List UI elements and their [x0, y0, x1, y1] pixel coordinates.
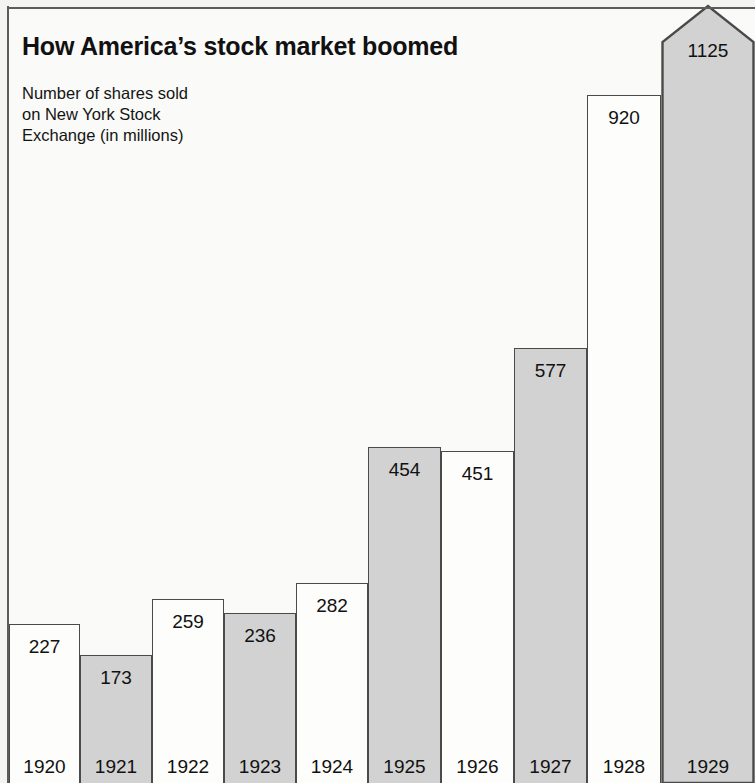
bar-year-label: 1929	[661, 756, 755, 778]
bar-value-label: 577	[515, 360, 586, 382]
bar-value-label: 451	[442, 463, 513, 485]
bar-value-label: 920	[588, 107, 660, 129]
bar-value-label: 236	[225, 625, 295, 647]
bar-year-label: 1928	[588, 756, 660, 778]
bar-1923[interactable]: 2361923	[224, 613, 296, 783]
chart-subtitle-line: Exchange (in millions)	[22, 125, 542, 146]
bar-value-label: 227	[10, 636, 79, 658]
bar-1927[interactable]: 5771927	[514, 348, 587, 783]
bar-value-label: 1125	[661, 40, 755, 62]
bar-1920[interactable]: 2271920	[9, 624, 80, 783]
bar-1926[interactable]: 4511926	[441, 451, 514, 783]
bar-arrow-shape	[661, 4, 755, 783]
chart-subtitle-line: Number of shares sold	[22, 83, 542, 104]
title-block: How America’s stock market boomed Number…	[22, 33, 542, 147]
bar-1924[interactable]: 2821924	[296, 583, 368, 783]
page-title: How America’s stock market boomed	[22, 33, 542, 61]
bar-1922[interactable]: 2591922	[152, 599, 224, 783]
frame-left-rule	[7, 6, 9, 783]
bar-year-label: 1926	[442, 756, 513, 778]
bar-value-label: 173	[81, 667, 151, 689]
bar-1929[interactable]: 11251929	[661, 4, 755, 783]
chart-page: 2271920173192125919222361923282192445419…	[0, 0, 755, 783]
frame-top-rule	[7, 7, 755, 9]
bar-year-label: 1922	[153, 756, 223, 778]
bar-year-label: 1927	[515, 756, 586, 778]
chart-subtitle: Number of shares soldon New York StockEx…	[22, 83, 542, 147]
chart-subtitle-line: on New York Stock	[22, 104, 542, 125]
bar-value-label: 259	[153, 611, 223, 633]
bar-year-label: 1921	[81, 756, 151, 778]
bar-value-label: 454	[369, 459, 440, 481]
bar-year-label: 1925	[369, 756, 440, 778]
bar-1925[interactable]: 4541925	[368, 447, 441, 783]
bar-year-label: 1924	[297, 756, 367, 778]
bar-year-label: 1923	[225, 756, 295, 778]
bar-1928[interactable]: 9201928	[587, 95, 661, 783]
bar-value-label: 282	[297, 595, 367, 617]
bar-1921[interactable]: 1731921	[80, 655, 152, 783]
bar-year-label: 1920	[10, 756, 79, 778]
